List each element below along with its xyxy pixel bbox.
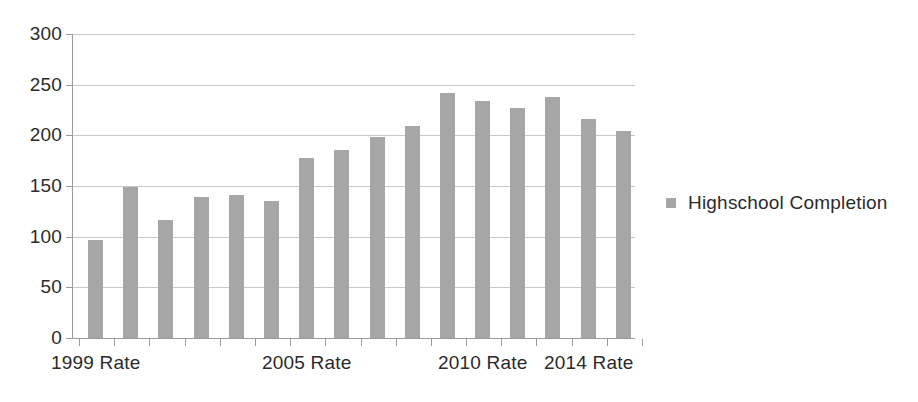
legend-label: Highschool Completion: [688, 192, 888, 214]
x-axis-tick-mark: [361, 339, 362, 346]
bar: [88, 240, 103, 338]
chart-legend: Highschool Completion: [666, 192, 888, 214]
bar: [229, 195, 244, 338]
gridline: [72, 34, 635, 35]
x-axis-tick-mark: [572, 339, 573, 346]
bar: [158, 220, 173, 338]
y-axis-tick-label: 50: [40, 277, 62, 296]
bar: [334, 150, 349, 338]
x-axis-tick-mark: [185, 339, 186, 346]
bar: [264, 201, 279, 338]
bar: [510, 108, 525, 338]
gridline: [72, 85, 635, 86]
legend-square-marker-icon: [666, 198, 676, 208]
y-axis-tick-mark: [66, 135, 73, 136]
plot-area: [72, 34, 635, 338]
x-axis-tick-mark: [466, 339, 467, 346]
x-axis-tick-mark: [501, 339, 502, 346]
bar: [405, 126, 420, 338]
x-axis-tick-mark: [290, 339, 291, 346]
bar: [123, 187, 138, 338]
x-axis-tick-mark: [325, 339, 326, 346]
y-axis: 300250200150100500: [0, 0, 62, 402]
x-axis-tick-mark: [255, 339, 256, 346]
bar: [475, 101, 490, 338]
x-axis-tick-mark: [149, 339, 150, 346]
x-axis-line: [72, 338, 635, 339]
bar: [299, 158, 314, 338]
x-axis-tick-mark: [114, 339, 115, 346]
x-axis-tick-label: 2010 Rate: [438, 352, 527, 374]
y-axis-tick-mark: [66, 287, 73, 288]
x-axis-tick-label: 2005 Rate: [262, 352, 351, 374]
bar-chart: 300250200150100500 1999 Rate2005 Rate201…: [0, 0, 918, 402]
y-axis-tick-label: 300: [30, 24, 62, 43]
bar: [616, 131, 631, 338]
bar: [440, 93, 455, 338]
bar: [370, 137, 385, 338]
x-axis-tick-label: 1999 Rate: [51, 352, 140, 374]
x-axis-tick-mark: [396, 339, 397, 346]
x-axis-tick-mark: [607, 339, 608, 346]
y-axis-tick-mark: [66, 186, 73, 187]
y-axis-tick-label: 100: [30, 227, 62, 246]
x-axis-tick-mark: [536, 339, 537, 346]
bar: [194, 197, 209, 338]
y-axis-tick-label: 150: [30, 176, 62, 195]
bar: [545, 97, 560, 338]
bar: [581, 119, 596, 338]
y-axis-tick-mark: [66, 85, 73, 86]
x-axis-tick-label: 2014 Rate: [544, 352, 633, 374]
y-axis-tick-label: 250: [30, 75, 62, 94]
x-axis-tick-mark: [79, 339, 80, 346]
y-axis-tick-label: 200: [30, 125, 62, 144]
y-axis-tick-mark: [66, 338, 73, 339]
y-axis-tick-mark: [66, 237, 73, 238]
x-axis-tick-mark: [220, 339, 221, 346]
y-axis-tick-label: 0: [51, 328, 62, 347]
x-axis-tick-mark: [642, 339, 643, 346]
y-axis-tick-mark: [66, 34, 73, 35]
x-axis-tick-mark: [431, 339, 432, 346]
